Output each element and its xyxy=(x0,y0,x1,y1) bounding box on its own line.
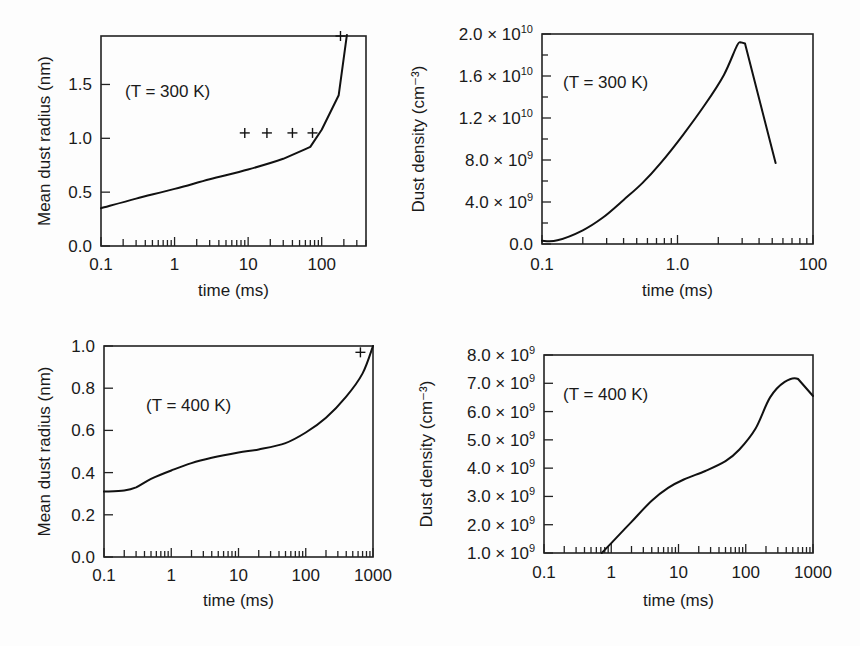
y-tick-label: 2.0 × 109 xyxy=(467,514,535,535)
y-tick-label: 4.0 × 109 xyxy=(467,457,535,478)
plot-frame xyxy=(104,346,373,557)
panel-top-left: Mean dust radius (nm) time (ms) (T = 300… xyxy=(35,31,366,300)
temperature-annotation: (T = 400 K) xyxy=(146,396,231,415)
y-tick-label: 1.6 × 1010 xyxy=(459,65,533,86)
y-tick-label: 0.6 xyxy=(71,421,95,440)
y-tick-label: 1.0 xyxy=(68,129,92,148)
y-tick-label: 4.0 × 109 xyxy=(465,191,533,212)
x-tick-label: 100 xyxy=(308,255,336,274)
x-tick-label: 100 xyxy=(799,255,827,274)
plot-frame xyxy=(542,34,813,244)
x-tick-label: 10 xyxy=(669,563,688,582)
temperature-annotation: (T = 400 K) xyxy=(563,385,648,404)
x-tick-label: 0.1 xyxy=(89,255,113,274)
y-tick-label: 0.0 xyxy=(509,235,533,254)
panel-bottom-right: Dust density (cm⁻³) time (ms) (T = 400 K… xyxy=(417,344,832,610)
model-curve xyxy=(542,42,776,241)
y-tick-label: 0.8 xyxy=(71,379,95,398)
y-tick-label: 6.0 × 109 xyxy=(467,401,535,422)
y-tick-label: 0.4 xyxy=(71,464,95,483)
model-curve xyxy=(101,35,347,208)
y-tick-label: 0.2 xyxy=(71,506,95,525)
y-tick-label: 1.0 xyxy=(71,337,95,356)
y-tick-label: 0.0 xyxy=(68,237,92,256)
x-tick-label: 1000 xyxy=(794,563,832,582)
y-tick-label: 1.2 × 1010 xyxy=(459,107,533,128)
y-tick-label: 3.0 × 109 xyxy=(467,485,535,506)
figure: Mean dust radius (nm) time (ms) (T = 300… xyxy=(0,0,860,646)
panel-top-right: Dust density (cm⁻³) time (ms) (T = 300 K… xyxy=(409,23,827,300)
y-tick-label: 7.0 × 109 xyxy=(467,372,535,393)
x-tick-label: 0.1 xyxy=(92,566,116,585)
model-curve xyxy=(104,346,373,492)
plus-marker xyxy=(240,128,250,138)
x-tick-label: 1.0 xyxy=(666,255,690,274)
plus-marker xyxy=(355,347,365,357)
x-tick-label: 0.1 xyxy=(532,563,556,582)
y-axis-label: Dust density (cm⁻³) xyxy=(409,66,428,213)
x-tick-label: 10 xyxy=(229,566,248,585)
y-axis-label: Mean dust radius (nm) xyxy=(35,366,54,536)
y-tick-label: 5.0 × 109 xyxy=(467,429,535,450)
y-axis-label: Mean dust radius (nm) xyxy=(35,56,54,226)
plot-frame xyxy=(101,36,366,246)
temperature-annotation: (T = 300 K) xyxy=(125,82,210,101)
y-axis-label: Dust density (cm⁻³) xyxy=(417,381,436,528)
y-tick-label: 2.0 × 1010 xyxy=(459,23,533,44)
x-axis-label: time (ms) xyxy=(643,591,714,610)
y-tick-label: 0.0 xyxy=(71,548,95,567)
y-tick-label: 0.5 xyxy=(68,183,92,202)
x-axis-label: time (ms) xyxy=(203,591,274,610)
y-tick-label: 1.5 xyxy=(68,75,92,94)
plus-marker xyxy=(262,128,272,138)
model-curve xyxy=(602,378,813,553)
y-tick-label: 8.0 × 109 xyxy=(467,344,535,365)
x-tick-label: 0.1 xyxy=(530,255,554,274)
x-tick-label: 1 xyxy=(167,566,176,585)
plus-marker xyxy=(335,31,345,41)
x-tick-label: 100 xyxy=(292,566,320,585)
panel-bottom-left: Mean dust radius (nm) time (ms) (T = 400… xyxy=(35,337,392,610)
x-axis-label: time (ms) xyxy=(198,281,269,300)
plus-marker xyxy=(287,128,297,138)
x-tick-label: 1 xyxy=(170,255,179,274)
y-tick-label: 1.0 × 109 xyxy=(467,542,535,563)
y-tick-label: 8.0 × 109 xyxy=(465,149,533,170)
plus-marker xyxy=(308,128,318,138)
temperature-annotation: (T = 300 K) xyxy=(563,73,648,92)
x-tick-label: 1000 xyxy=(354,566,392,585)
x-tick-label: 100 xyxy=(732,563,760,582)
x-tick-label: 1 xyxy=(607,563,616,582)
x-axis-label: time (ms) xyxy=(642,281,713,300)
x-tick-label: 10 xyxy=(239,255,258,274)
